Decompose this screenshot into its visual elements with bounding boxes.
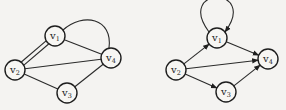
edge-v3-v4	[75, 64, 103, 87]
node-v4: v4	[258, 49, 278, 69]
node-v2: v2	[166, 60, 186, 80]
edge-v1-v2	[21, 41, 46, 62]
edge-v1-v1	[201, 0, 234, 32]
undirected-graph: v1v2v3v4	[5, 20, 121, 103]
node-v4: v4	[101, 48, 121, 68]
node-v3: v3	[57, 83, 77, 103]
edge-v3-v4	[234, 65, 260, 86]
edge-v2-v4	[186, 60, 258, 69]
edge-v1-v4	[226, 42, 259, 55]
edge-v2-v4	[25, 59, 101, 69]
edge-v1-v4	[64, 40, 101, 55]
node-v1: v1	[207, 28, 227, 48]
edge-v1-v2	[24, 44, 49, 65]
edge-v1-v4	[63, 20, 109, 48]
node-v2: v2	[5, 60, 25, 80]
edge-v2-v3	[24, 74, 58, 89]
edge-v2-v3	[185, 74, 217, 88]
directed-graph: v1v2v3v4	[166, 0, 278, 102]
edge-v2-v1	[184, 44, 209, 64]
graph-diagram: v1v2v3v4 v1v2v3v4	[0, 0, 286, 110]
node-v1: v1	[45, 26, 65, 46]
edges	[21, 20, 109, 89]
node-v3: v3	[216, 82, 236, 102]
